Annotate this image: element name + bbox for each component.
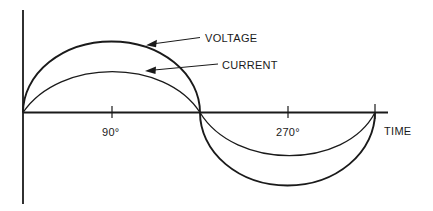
voltage-pointer: [146, 38, 200, 48]
tick-label-90: 90°: [102, 126, 120, 138]
voltage-curve: [23, 41, 375, 185]
current-label: CURRENT: [222, 59, 278, 71]
arrow-icon: [146, 40, 157, 47]
voltage-current-waveform-diagram: VOLTAGE CURRENT TIME 90° 270°: [0, 0, 433, 211]
current-curve: [23, 72, 375, 156]
time-axis-label: TIME: [384, 125, 411, 137]
voltage-label: VOLTAGE: [205, 32, 257, 44]
tick-label-270: 270°: [276, 126, 300, 138]
arrow-icon: [145, 67, 156, 75]
